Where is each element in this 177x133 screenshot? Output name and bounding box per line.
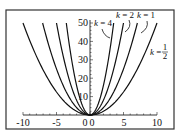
label-k2: k = 2 bbox=[116, 10, 134, 20]
svg-text:2: 2 bbox=[163, 51, 168, 61]
y-tick-label: 10 bbox=[78, 91, 88, 102]
y-tick-label: 20 bbox=[78, 73, 88, 84]
y-tick-label: 30 bbox=[78, 54, 88, 65]
y-tick-label: 50 bbox=[78, 17, 88, 28]
label-k4: k = 4 bbox=[94, 18, 113, 28]
origin-y-label: 0 bbox=[83, 117, 88, 128]
label-khalf: k = 1 2 bbox=[150, 42, 168, 61]
arrow-k1 bbox=[141, 21, 147, 33]
x-tick-label: 5 bbox=[122, 117, 127, 128]
svg-text:k =: k = bbox=[150, 47, 161, 57]
parabola-family-chart: -10 -5 0 0 5 10 10 20 30 40 50 k = 4 k =… bbox=[0, 0, 177, 133]
x-tick-label: 10 bbox=[152, 117, 162, 128]
label-k1: k = 1 bbox=[137, 10, 155, 20]
x-tick-label: -10 bbox=[16, 117, 29, 128]
arrow-k4 bbox=[102, 29, 110, 38]
x-tick-label: -5 bbox=[52, 117, 60, 128]
x-tick-label: 0 bbox=[90, 117, 95, 128]
arrow-k2 bbox=[125, 20, 130, 32]
y-tick-label: 40 bbox=[78, 36, 88, 47]
